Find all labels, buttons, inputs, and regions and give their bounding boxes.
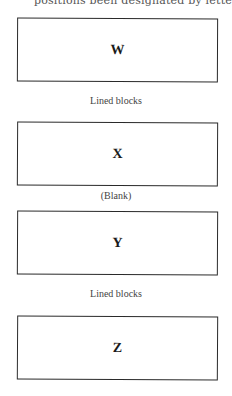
block-y: Y bbox=[17, 210, 218, 275]
clipped-header-text: positions been designated by lette bbox=[0, 0, 232, 7]
block-label: Z bbox=[113, 340, 122, 356]
block-label: Y bbox=[112, 235, 122, 251]
caption-lined-blocks: Lined blocks bbox=[0, 288, 232, 299]
caption-blank: (Blank) bbox=[0, 190, 232, 201]
block-label: W bbox=[110, 42, 124, 58]
block-w: W bbox=[17, 18, 218, 83]
caption-lined-blocks: Lined blocks bbox=[0, 95, 232, 106]
block-label: X bbox=[112, 146, 122, 162]
block-z: Z bbox=[17, 315, 218, 380]
block-x: X bbox=[17, 121, 218, 186]
